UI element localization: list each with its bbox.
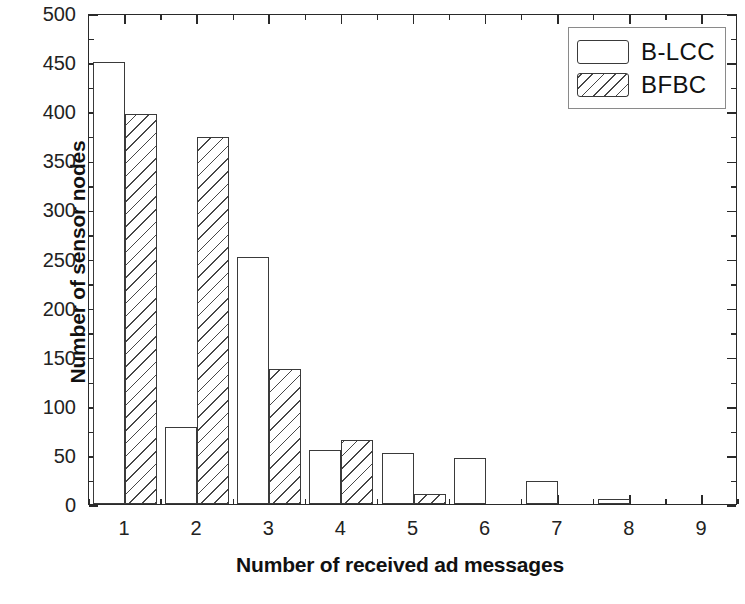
y-tick-label: 500 [14,4,76,24]
x-tick-minor [737,499,738,504]
legend-item-bfbc: BFBC [577,68,715,101]
legend-swatch-b-lcc [577,40,629,64]
bar-b-lcc-3 [237,257,269,504]
y-tick-label: 50 [14,446,76,466]
bar-bfbc-5 [414,494,446,504]
y-tick-minor-right [731,88,736,89]
y-tick-major-right [727,309,736,311]
x-tick-minor-top [377,15,378,20]
bar-bfbc-4 [341,440,373,504]
y-tick-major-right [727,407,736,409]
chart-figure: Number of sensor nodes Number of receive… [0,0,745,604]
x-tick-label: 3 [248,518,288,538]
y-tick-major [89,14,98,16]
y-tick-minor-right [731,186,736,187]
x-tick-major-top [413,15,415,24]
x-tick-minor-top [160,15,161,20]
x-tick-minor-top [449,15,450,20]
bar-b-lcc-2 [165,427,197,504]
legend-swatch-bfbc [577,73,629,97]
y-tick-minor-right [731,481,736,482]
x-tick-major-top [341,15,343,24]
y-tick-label: 100 [14,397,76,417]
bar-b-lcc-6 [454,458,486,504]
y-tick-minor-right [731,137,736,138]
x-tick-minor-top [521,15,522,20]
x-tick-major-top [485,15,487,24]
bar-bfbc-2 [197,137,229,504]
x-tick-major [701,495,703,504]
x-tick-label: 4 [320,518,360,538]
y-tick-minor-right [731,383,736,384]
legend-label-bfbc: BFBC [641,71,707,99]
x-tick-minor-top [593,15,594,20]
x-tick-label: 7 [537,518,577,538]
x-tick-minor [665,499,666,504]
x-tick-label: 9 [681,518,721,538]
y-tick-major-right [727,260,736,262]
y-tick-minor-right [731,333,736,334]
bar-bfbc-1 [125,114,157,504]
x-tick-major-top [629,15,631,24]
y-tick-major-right [727,14,736,16]
y-tick-major-right [727,456,736,458]
x-tick-major-top [701,15,703,24]
y-tick-label: 200 [14,299,76,319]
y-tick-label: 350 [14,151,76,171]
plot-area: B-LCC BFBC [88,14,737,505]
x-tick-label: 1 [104,518,144,538]
x-tick-label: 2 [176,518,216,538]
y-tick-major-right [727,162,736,164]
y-tick-major [89,505,98,507]
x-tick-minor [377,499,378,504]
y-tick-minor-right [731,284,736,285]
y-tick-major-right [727,211,736,213]
bar-bfbc-3 [269,369,301,504]
y-tick-minor-right [731,235,736,236]
x-tick-minor-top [305,15,306,20]
y-tick-major-right [727,505,736,507]
x-axis-title: Number of received ad messages [60,553,740,577]
x-tick-minor-top [233,15,234,20]
x-tick-minor [449,499,450,504]
y-tick-minor [89,39,94,40]
x-tick-major-top [557,15,559,24]
bar-b-lcc-5 [382,453,414,504]
x-tick-minor [593,499,594,504]
y-tick-minor-right [731,39,736,40]
x-tick-minor [305,499,306,504]
legend-item-b-lcc: B-LCC [577,35,715,68]
x-tick-major-top [196,15,198,24]
x-tick-minor [88,499,89,504]
y-tick-major-right [727,63,736,65]
legend-label-b-lcc: B-LCC [641,38,715,66]
y-tick-major-right [727,112,736,114]
x-tick-minor-top [665,15,666,20]
y-tick-major-right [727,358,736,360]
x-tick-label: 5 [393,518,433,538]
chart-legend: B-LCC BFBC [568,27,726,109]
y-tick-label: 450 [14,53,76,73]
x-tick-minor [160,499,161,504]
y-tick-label: 0 [14,495,76,515]
bar-b-lcc-1 [93,62,125,504]
y-tick-label: 250 [14,250,76,270]
x-tick-major-top [124,15,126,24]
bar-b-lcc-8 [598,499,630,504]
y-tick-label: 150 [14,348,76,368]
x-tick-major-top [268,15,270,24]
bar-b-lcc-4 [309,450,341,504]
x-tick-minor [521,499,522,504]
y-tick-minor-right [731,432,736,433]
x-tick-label: 6 [465,518,505,538]
x-tick-label: 8 [609,518,649,538]
x-tick-minor [233,499,234,504]
y-tick-label: 400 [14,102,76,122]
bar-b-lcc-7 [526,481,558,504]
y-tick-label: 300 [14,200,76,220]
